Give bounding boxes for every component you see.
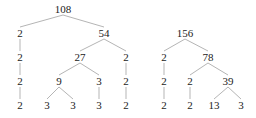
tree-node-label: 3 [96, 99, 102, 111]
factor-tree-diagram: 1082542272293223332156278223922133 [0, 0, 256, 118]
tree-edge [104, 39, 126, 51]
tree-node-label: 2 [161, 75, 167, 87]
tree-node-label: 3 [44, 99, 50, 111]
tree-node-label: 9 [56, 75, 62, 87]
tree-node-label: 39 [223, 75, 235, 87]
tree-edge [63, 15, 104, 27]
tree-edge [190, 63, 208, 75]
tree-edge [59, 87, 73, 99]
tree-edge [185, 39, 208, 51]
tree-edge [20, 15, 63, 27]
tree-node-label: 2 [123, 51, 129, 63]
tree-node-label: 13 [209, 99, 221, 111]
tree-node-label: 2 [17, 99, 23, 111]
tree-node-label: 3 [238, 99, 244, 111]
tree-edge [208, 63, 228, 75]
tree-node-label: 108 [55, 3, 72, 15]
tree-node-label: 2 [161, 99, 167, 111]
tree-node-label: 27 [75, 51, 87, 63]
tree-node-label: 78 [203, 51, 215, 63]
tree-node-label: 2 [17, 27, 23, 39]
tree-edge [214, 87, 228, 99]
tree-node-label: 2 [187, 75, 193, 87]
tree-edge [228, 87, 241, 99]
tree-edge [80, 39, 104, 51]
tree-node-label: 2 [17, 75, 23, 87]
tree-node-label: 156 [177, 27, 194, 39]
tree-node-label: 2 [123, 99, 129, 111]
tree-node-label: 2 [187, 99, 193, 111]
tree-node-label: 2 [123, 75, 129, 87]
tree-edge [80, 63, 99, 75]
tree-node-label: 3 [70, 99, 76, 111]
tree-node-label: 3 [96, 75, 102, 87]
tree-node-label: 54 [99, 27, 111, 39]
tree-edge [47, 87, 59, 99]
tree-edge [164, 39, 185, 51]
tree-edge [59, 63, 80, 75]
tree-node-label: 2 [161, 51, 167, 63]
tree-node-label: 2 [17, 51, 23, 63]
